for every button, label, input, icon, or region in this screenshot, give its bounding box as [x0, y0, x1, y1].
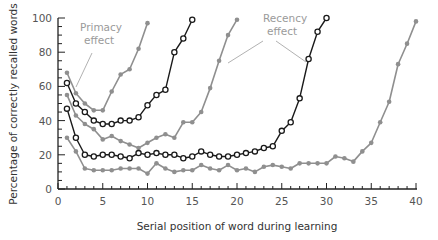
data-point: [136, 115, 141, 120]
primacy-effect-label: Primacyeffect: [80, 21, 122, 46]
x-tick-label: 10: [141, 195, 154, 207]
data-point: [109, 152, 114, 157]
data-point: [414, 19, 419, 24]
data-point: [306, 56, 311, 61]
data-point: [118, 72, 123, 77]
y-tick-label: 40: [39, 115, 52, 127]
data-point: [271, 163, 276, 168]
data-point: [127, 166, 132, 171]
data-point: [208, 166, 213, 171]
data-point: [83, 122, 88, 127]
data-point: [270, 144, 275, 149]
x-axis-title: Serial position of word during learning: [137, 220, 338, 232]
data-point: [109, 121, 114, 126]
data-point: [243, 150, 248, 155]
data-point: [73, 135, 78, 140]
data-point: [181, 36, 186, 41]
primacy-leader-line: [76, 53, 92, 87]
x-tick-label: 20: [230, 195, 243, 207]
data-point: [244, 166, 249, 171]
data-point: [118, 118, 123, 123]
data-point: [396, 62, 401, 67]
data-point: [324, 15, 329, 20]
data-point: [181, 156, 186, 161]
data-point: [109, 134, 114, 139]
data-point: [92, 127, 97, 132]
data-point: [74, 91, 79, 96]
data-point: [226, 33, 231, 38]
data-point: [378, 120, 383, 125]
data-point: [288, 120, 293, 125]
recency-leader-line: [276, 41, 306, 62]
data-point: [172, 170, 177, 175]
data-point: [351, 159, 356, 164]
data-point: [369, 141, 374, 146]
x-tick-label: 35: [365, 195, 378, 207]
data-point: [235, 168, 240, 173]
data-point: [181, 168, 186, 173]
data-point: [172, 152, 177, 157]
data-point: [315, 29, 320, 34]
data-point: [74, 149, 79, 154]
y-tick-label: 80: [39, 46, 52, 58]
x-tick-label: 15: [186, 195, 199, 207]
data-point: [65, 135, 70, 140]
y-axis-title: Percentage of correctly recalled words: [7, 3, 19, 204]
data-point: [127, 118, 132, 123]
data-point: [154, 135, 159, 140]
serial-position-chart: 0510152025303540020406080100 Primacyeffe…: [0, 0, 438, 240]
data-point: [306, 161, 311, 166]
data-point: [136, 46, 141, 51]
recency-effect-label: Recencyeffect: [263, 12, 307, 37]
data-point: [100, 152, 105, 157]
y-tick-label: 100: [32, 12, 52, 24]
x-tick-label: 5: [99, 195, 106, 207]
data-point: [64, 106, 69, 111]
data-point: [262, 164, 267, 169]
data-point: [83, 101, 88, 106]
data-point: [217, 168, 222, 173]
data-point: [279, 164, 284, 169]
data-point: [92, 108, 97, 113]
data-point: [172, 135, 177, 140]
data-point: [190, 154, 195, 159]
data-point: [288, 166, 293, 171]
y-tick-label: 20: [39, 149, 52, 161]
data-point: [234, 152, 239, 157]
data-point: [181, 120, 186, 125]
data-point: [297, 161, 302, 166]
data-point: [163, 152, 168, 157]
data-point: [261, 145, 266, 150]
data-point: [163, 132, 168, 137]
data-series: [64, 15, 418, 176]
x-tick-label: 40: [409, 195, 422, 207]
data-point: [64, 80, 69, 85]
data-point: [190, 120, 195, 125]
data-point: [100, 168, 105, 173]
data-point: [252, 149, 257, 154]
data-point: [225, 154, 230, 159]
y-tick-label: 0: [45, 183, 52, 195]
data-point: [145, 103, 150, 108]
data-point: [190, 17, 195, 22]
data-point: [118, 166, 123, 171]
data-point: [253, 170, 258, 175]
data-point: [145, 141, 150, 146]
data-point: [342, 156, 347, 161]
x-tick-label: 25: [275, 195, 288, 207]
data-point: [82, 109, 87, 114]
data-point: [199, 110, 204, 115]
data-point: [83, 166, 88, 171]
data-point: [315, 161, 320, 166]
data-point: [208, 152, 213, 157]
data-point: [127, 67, 132, 72]
data-point: [74, 113, 79, 118]
data-point: [100, 137, 105, 142]
data-point: [136, 150, 141, 155]
data-point: [279, 128, 284, 133]
data-point: [163, 166, 168, 171]
data-point: [333, 154, 338, 159]
series-5: [65, 19, 419, 176]
data-point: [154, 92, 159, 97]
data-point: [387, 99, 392, 104]
